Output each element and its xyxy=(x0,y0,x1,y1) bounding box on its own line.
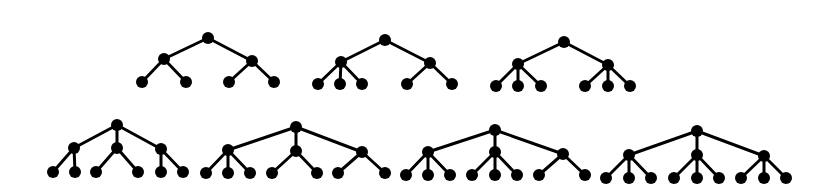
leaf-node xyxy=(132,166,144,178)
edge xyxy=(385,40,430,63)
internal-node xyxy=(111,142,123,154)
leaf-node xyxy=(180,76,192,88)
leaf-node xyxy=(136,76,148,88)
edge xyxy=(74,125,117,148)
root-node xyxy=(489,124,501,136)
leaf-node xyxy=(155,166,167,178)
leaf-node xyxy=(268,76,280,88)
leaf-node xyxy=(332,167,344,179)
root-node xyxy=(111,119,123,131)
internal-node xyxy=(246,55,258,67)
edge xyxy=(564,42,608,65)
leaf-node xyxy=(713,172,725,184)
leaf-node xyxy=(602,80,614,92)
root-node xyxy=(691,125,703,137)
leaf-node xyxy=(222,167,234,179)
internal-node xyxy=(691,149,703,161)
tree-7 xyxy=(600,125,792,184)
leaf-node xyxy=(311,167,323,179)
root-node xyxy=(379,34,391,46)
trees-svg xyxy=(0,0,832,193)
leaf-node xyxy=(177,166,189,178)
leaf-node xyxy=(446,78,458,90)
edge xyxy=(208,38,252,61)
edge xyxy=(164,38,208,59)
leaf-node xyxy=(266,167,278,179)
leaf-node xyxy=(579,80,591,92)
internal-node xyxy=(158,53,170,65)
internal-node xyxy=(424,57,436,69)
edge xyxy=(296,127,362,152)
internal-node xyxy=(356,146,368,158)
internal-node xyxy=(68,142,80,154)
internal-node xyxy=(557,148,569,160)
root-node xyxy=(558,36,570,48)
edge xyxy=(629,131,697,155)
leaf-node xyxy=(512,80,524,92)
internal-node xyxy=(758,150,770,162)
leaf-node xyxy=(535,80,547,92)
leaf-node xyxy=(69,166,81,178)
internal-node xyxy=(489,146,501,158)
edge xyxy=(228,127,296,150)
leaf-node xyxy=(47,166,59,178)
leaf-node xyxy=(422,169,434,181)
root-node xyxy=(202,32,214,44)
internal-node xyxy=(623,149,635,161)
leaf-node xyxy=(511,169,523,181)
tree-3 xyxy=(490,36,636,92)
root-node xyxy=(290,121,302,133)
leaf-node xyxy=(533,169,545,181)
tree-2 xyxy=(312,34,458,90)
leaf-node xyxy=(645,172,657,184)
leaf-node xyxy=(691,172,703,184)
leaf-node xyxy=(379,167,391,179)
internal-node xyxy=(222,144,234,156)
leaf-node xyxy=(579,169,591,181)
leaf-node xyxy=(401,78,413,90)
edge xyxy=(495,130,563,154)
tree-1 xyxy=(136,32,280,88)
leaf-node xyxy=(90,166,102,178)
leaf-node xyxy=(356,78,368,90)
internal-node xyxy=(602,59,614,71)
leaf-node xyxy=(668,172,680,184)
leaf-node xyxy=(780,172,792,184)
internal-node xyxy=(335,56,347,68)
leaf-node xyxy=(223,76,235,88)
internal-node xyxy=(290,145,302,157)
edge xyxy=(518,42,564,64)
leaf-node xyxy=(400,169,412,181)
leaf-node xyxy=(444,169,456,181)
leaf-node xyxy=(312,78,324,90)
leaf-node xyxy=(624,80,636,92)
edge xyxy=(341,40,385,62)
internal-node xyxy=(422,146,434,158)
leaf-node xyxy=(244,167,256,179)
leaf-node xyxy=(735,172,747,184)
tree-6 xyxy=(400,124,591,181)
tree-4 xyxy=(47,119,189,178)
leaf-node xyxy=(334,78,346,90)
tree-diagram xyxy=(0,0,832,193)
edge xyxy=(428,130,495,152)
leaf-node xyxy=(200,167,212,179)
leaf-node xyxy=(600,172,612,184)
edge xyxy=(117,125,161,149)
tree-5 xyxy=(200,121,391,179)
leaf-node xyxy=(489,169,501,181)
leaf-node xyxy=(466,169,478,181)
edge xyxy=(697,131,764,156)
internal-node xyxy=(512,58,524,70)
leaf-node xyxy=(758,172,770,184)
leaf-node xyxy=(490,80,502,92)
leaf-node xyxy=(623,172,635,184)
internal-node xyxy=(155,143,167,155)
